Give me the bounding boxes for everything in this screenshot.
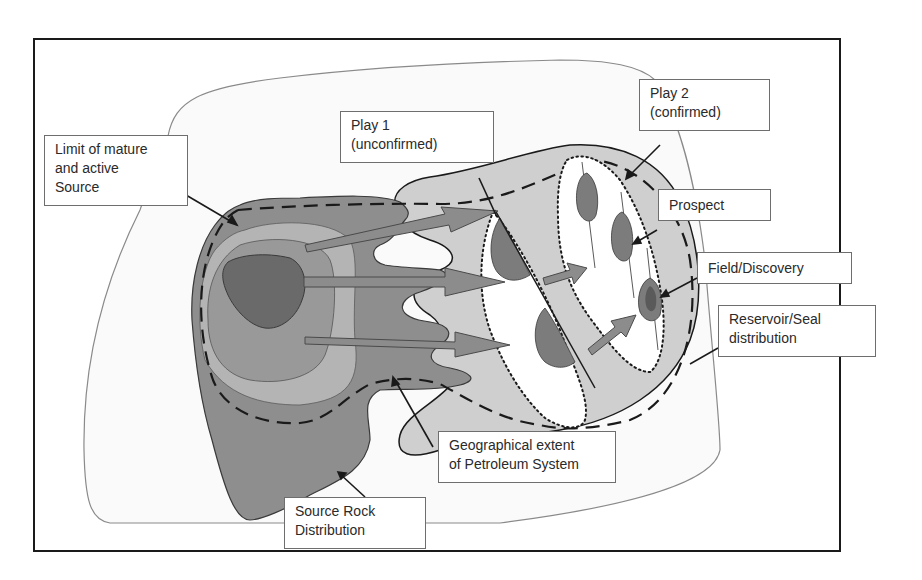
label-play1: Play 1 (unconfirmed) [340,111,494,163]
label-play2: Play 2 (confirmed) [639,79,770,131]
label-geographical-extent-line2: of Petroleum System [449,455,605,474]
label-source-rock-distribution: Source Rock Distribution [284,497,426,549]
label-reservoir-seal: Reservoir/Seal distribution [718,305,876,357]
label-limit-source-line3: Source [55,178,177,197]
label-limit-mature-source: Limit of mature and active Source [44,135,188,206]
label-reservoir-seal-line1: Reservoir/Seal [729,310,865,329]
label-play2-line2: (confirmed) [650,103,759,122]
petroleum-system-diagram [0,0,922,580]
label-play1-line2: (unconfirmed) [351,135,483,154]
label-source-rock-line1: Source Rock [295,502,415,521]
label-limit-source-line2: and active [55,159,177,178]
label-play1-line1: Play 1 [351,116,483,135]
label-geographical-extent-line1: Geographical extent [449,436,605,455]
label-limit-source-line1: Limit of mature [55,140,177,159]
label-source-rock-line2: Distribution [295,521,415,540]
label-field-discovery-line1: Field/Discovery [708,259,841,278]
label-prospect-line1: Prospect [669,196,760,215]
label-prospect: Prospect [658,189,771,221]
label-play2-line1: Play 2 [650,84,759,103]
label-geographical-extent: Geographical extent of Petroleum System [438,431,616,483]
label-field-discovery: Field/Discovery [697,252,852,284]
label-reservoir-seal-line2: distribution [729,329,865,348]
